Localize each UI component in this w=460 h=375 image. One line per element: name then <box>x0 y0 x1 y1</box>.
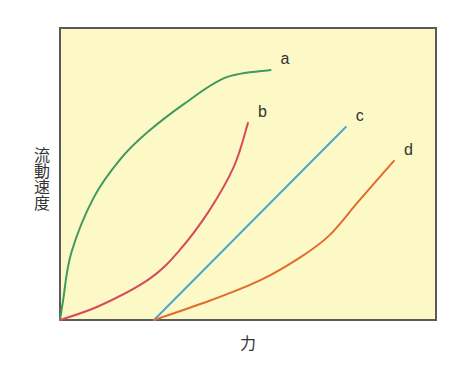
series-label-c: c <box>356 107 364 124</box>
y-axis-label: 流動速度 <box>30 147 50 211</box>
series-label-d: d <box>404 141 413 158</box>
series-label-a: a <box>281 50 290 67</box>
flow-velocity-vs-force-chart: abcd <box>0 0 460 375</box>
series-label-b: b <box>258 103 267 120</box>
x-axis-label: 力 <box>240 330 256 354</box>
